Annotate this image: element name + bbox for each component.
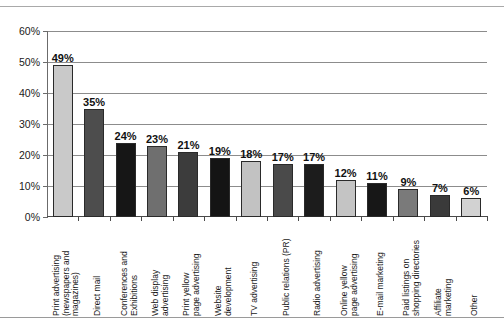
bar-value-label: 11% [366,170,387,182]
y-tick-label: 60% [19,26,40,37]
bar-value-label: 23% [146,133,168,145]
bar-slot: 35% [78,31,109,217]
clipped-title-text [44,0,224,3]
x-tick [298,216,299,221]
bar-value-label: 21% [177,139,199,151]
bar[interactable]: 6% [461,198,481,217]
bar[interactable]: 9% [398,189,418,217]
bar-slot: 17% [298,31,329,217]
y-tick-label: 20% [19,150,40,161]
x-tick [361,216,362,221]
y-tick-0 [43,217,48,218]
bar-slot: 18% [236,31,267,217]
x-category-label: E-mail marketing [376,224,386,316]
plot-area: 0%10%20%30%40%50%60% 49%35%24%23%21%19%1… [47,31,487,217]
bar-series: 49%35%24%23%21%19%18%17%17%12%11%9%7%6% [47,31,487,217]
bar-value-label: 35% [83,96,105,108]
x-category-label: Paid listings on shopping directories [402,224,422,316]
bar[interactable]: 24% [116,143,136,217]
bar[interactable]: 17% [273,164,293,217]
bar-value-label: 6% [463,185,479,197]
bar-slot: 17% [267,31,298,217]
chart-page: 0%10%20%30%40%50%60% 49%35%24%23%21%19%1… [0,0,504,325]
bar-value-label: 9% [400,176,416,188]
x-tick [204,216,205,221]
y-tick-label: 30% [19,119,40,130]
bar[interactable]: 18% [241,161,261,217]
x-tick [110,216,111,221]
y-tick-label: 50% [19,57,40,68]
bar-value-label: 24% [115,130,137,142]
x-tick [173,216,174,221]
x-category-label: Print advertising (newspapers and magazi… [52,224,82,316]
bar-slot: 23% [141,31,172,217]
x-category-label: Other [470,224,480,316]
bar[interactable]: 19% [210,158,230,217]
bar-slot: 24% [110,31,141,217]
x-tick [236,216,237,221]
y-tick-label: 0% [25,212,40,223]
bar[interactable]: 7% [430,195,450,217]
y-tick-label: 10% [19,181,40,192]
x-tick [78,216,79,221]
y-tick-label: 40% [19,88,40,99]
bar-value-label: 19% [209,145,231,157]
x-category-label: TV advertising [250,224,260,316]
bar[interactable]: 21% [178,152,198,217]
bar[interactable]: 35% [84,109,104,218]
bar[interactable]: 12% [336,180,356,217]
bar-slot: 6% [456,31,487,217]
x-category-label: Web display advertising [151,224,171,316]
x-category-label: Conferences and Exhibitions [120,224,140,316]
x-tick [393,216,394,221]
bar-slot: 49% [47,31,78,217]
top-divider-rule [0,6,504,7]
x-category-label: Website development [214,224,234,316]
bar-value-label: 7% [432,182,448,194]
x-tick [141,216,142,221]
x-category-label: Print yellow page advertising [182,224,202,316]
x-tick [487,216,488,221]
x-tick [330,216,331,221]
bar-slot: 19% [204,31,235,217]
x-category-label: Affiliate marketing [434,224,454,316]
x-category-label: Online yellow page advertising [340,224,360,316]
bar[interactable]: 49% [53,65,73,217]
bar-value-label: 17% [303,151,325,163]
bar-value-label: 12% [335,167,357,179]
bar[interactable]: 23% [147,146,167,217]
x-tick [456,216,457,221]
bar-slot: 7% [424,31,455,217]
bottom-divider-rule [0,317,504,318]
x-tick [424,216,425,221]
x-tick [267,216,268,221]
bar[interactable]: 17% [304,164,324,217]
x-category-label: Public relations (PR) [282,224,292,316]
bar-slot: 9% [393,31,424,217]
x-category-label: Radio advertising [313,224,323,316]
bar-slot: 12% [330,31,361,217]
bar-slot: 21% [173,31,204,217]
bar-value-label: 17% [272,151,294,163]
bar[interactable]: 11% [367,183,387,217]
bar-value-label: 18% [240,148,262,160]
x-axis-category-labels: Print advertising (newspapers and magazi… [47,224,487,319]
x-category-label: Direct mail [93,224,103,316]
bar-value-label: 49% [52,52,74,64]
bar-slot: 11% [361,31,392,217]
